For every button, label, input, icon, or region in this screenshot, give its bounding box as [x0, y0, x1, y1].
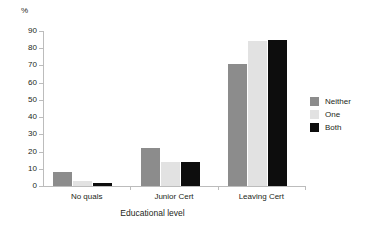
y-axis-tick-mark	[39, 100, 43, 101]
chart-legend: NeitherOneBoth	[310, 95, 351, 134]
y-axis-tick-mark	[39, 117, 43, 118]
bar	[53, 172, 72, 186]
x-axis-group-label: No quals	[43, 192, 130, 201]
legend-swatch-icon	[310, 123, 319, 132]
x-axis-group-label: Junior Cert	[130, 192, 217, 201]
y-axis-tick-mark	[39, 48, 43, 49]
bar	[161, 162, 180, 186]
x-axis-group-label: Leaving Cert	[218, 192, 305, 201]
y-axis-tick-mark	[39, 186, 43, 187]
y-axis-unit-label: %	[21, 6, 28, 15]
y-axis-tick-mark	[39, 31, 43, 32]
y-axis-tick-mark	[39, 65, 43, 66]
legend-item: Both	[310, 121, 351, 134]
plot-area: 9080706050403020100	[43, 31, 305, 186]
bar	[228, 64, 247, 186]
x-axis-group-separator	[130, 186, 131, 190]
x-axis-line	[43, 186, 305, 187]
bar	[268, 40, 287, 186]
legend-item-label: Neither	[325, 98, 351, 106]
legend-item: Neither	[310, 95, 351, 108]
legend-swatch-icon	[310, 110, 319, 119]
y-axis-tick-label: 20	[28, 148, 37, 156]
y-axis-tick-label: 70	[28, 61, 37, 69]
bar	[248, 41, 267, 186]
legend-swatch-icon	[310, 97, 319, 106]
x-axis-group-separator	[305, 186, 306, 190]
y-axis-tick-label: 40	[28, 113, 37, 121]
bar	[181, 162, 200, 186]
y-axis-tick-label: 60	[28, 79, 37, 87]
bar	[73, 181, 92, 186]
bar-chart: % 9080706050403020100 No qualsJunior Cer…	[0, 0, 380, 235]
y-axis-tick-label: 10	[28, 165, 37, 173]
legend-item-label: One	[325, 111, 340, 119]
y-axis-tick-mark	[39, 83, 43, 84]
y-axis-tick-mark	[39, 169, 43, 170]
y-axis-tick-label: 30	[28, 130, 37, 138]
y-axis-tick-label: 80	[28, 44, 37, 52]
bar	[93, 183, 112, 186]
x-axis-group-separator	[218, 186, 219, 190]
y-axis-tick-label: 90	[28, 27, 37, 35]
legend-item-label: Both	[325, 124, 341, 132]
y-axis-tick-mark	[39, 134, 43, 135]
y-axis-tick-label: 0	[33, 182, 37, 190]
y-axis-tick-mark	[39, 152, 43, 153]
bar	[141, 148, 160, 186]
legend-item: One	[310, 108, 351, 121]
y-axis-tick-label: 50	[28, 96, 37, 104]
x-axis-title: Educational level	[0, 208, 305, 218]
